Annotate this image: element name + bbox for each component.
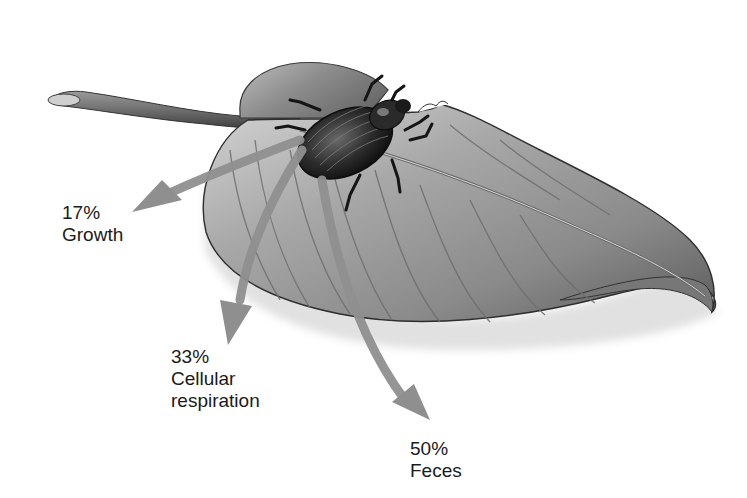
leaf	[203, 101, 715, 322]
label-feces: 50% Feces	[410, 438, 462, 482]
energy-flow-diagram	[0, 0, 747, 498]
respiration-text-line2: respiration	[171, 390, 260, 412]
growth-percent: 17%	[62, 202, 123, 224]
feces-percent: 50%	[410, 438, 462, 460]
respiration-text-line1: Cellular	[171, 368, 260, 390]
growth-text: Growth	[62, 224, 123, 246]
respiration-percent: 33%	[171, 346, 260, 368]
label-cellular-respiration: 33% Cellular respiration	[171, 346, 260, 412]
label-growth: 17% Growth	[62, 202, 123, 246]
feces-text: Feces	[410, 460, 462, 482]
